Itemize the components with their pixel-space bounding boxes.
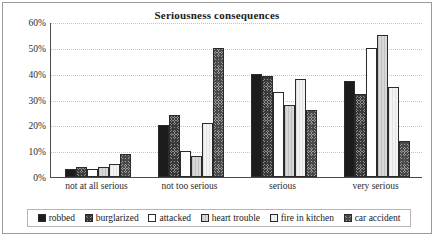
bar bbox=[262, 76, 273, 177]
bar bbox=[180, 151, 191, 177]
legend-item[interactable]: burglarized bbox=[85, 213, 139, 223]
bar bbox=[355, 94, 366, 177]
bar bbox=[191, 156, 202, 177]
y-axis-tick-label: 50% bbox=[29, 44, 46, 54]
bar-group bbox=[237, 23, 330, 177]
legend-swatch-icon bbox=[148, 214, 156, 222]
bar bbox=[98, 167, 109, 177]
bar-group bbox=[330, 23, 423, 177]
y-axis-tick-label: 0% bbox=[33, 173, 46, 183]
bar bbox=[273, 92, 284, 177]
legend-label: burglarized bbox=[96, 213, 139, 223]
legend-label: heart trouble bbox=[212, 213, 260, 223]
legend-label: robbed bbox=[49, 213, 75, 223]
bar bbox=[377, 35, 388, 177]
y-axis-tick-label: 30% bbox=[29, 96, 46, 106]
plot-area: 0%10%20%30%40%50%60% bbox=[50, 23, 422, 178]
bar bbox=[213, 48, 224, 177]
legend-item[interactable]: fire in kitchen bbox=[270, 213, 334, 223]
legend-item[interactable]: heart trouble bbox=[201, 213, 260, 223]
x-axis-tick-label: serious bbox=[269, 181, 296, 191]
legend-item[interactable]: robbed bbox=[38, 213, 75, 223]
y-axis-tick-label: 20% bbox=[29, 121, 46, 131]
legend-swatch-icon bbox=[38, 214, 46, 222]
chart-legend: robbedburglarizedattackedheart troublefi… bbox=[27, 209, 411, 227]
bar bbox=[399, 141, 410, 177]
bar-group bbox=[144, 23, 237, 177]
bar bbox=[295, 79, 306, 177]
bar bbox=[158, 125, 169, 177]
bar bbox=[169, 115, 180, 177]
x-axis-tick-label: not too serious bbox=[162, 181, 218, 191]
bar bbox=[65, 169, 76, 177]
legend-item[interactable]: attacked bbox=[148, 213, 191, 223]
bar bbox=[109, 164, 120, 177]
x-axis-tick-label: very serious bbox=[352, 181, 398, 191]
legend-item[interactable]: car accident bbox=[344, 213, 401, 223]
bar bbox=[306, 110, 317, 177]
legend-swatch-icon bbox=[85, 214, 93, 222]
bar bbox=[76, 167, 87, 177]
legend-label: car accident bbox=[355, 213, 401, 223]
bar bbox=[344, 81, 355, 177]
legend-swatch-icon bbox=[270, 214, 278, 222]
x-axis-tick-label: not at all serious bbox=[65, 181, 128, 191]
bar bbox=[284, 105, 295, 177]
bar bbox=[120, 154, 131, 177]
legend-label: fire in kitchen bbox=[281, 213, 334, 223]
bar-group bbox=[51, 23, 144, 177]
bar bbox=[202, 123, 213, 177]
y-axis-tick-label: 60% bbox=[29, 18, 46, 28]
legend-label: attacked bbox=[159, 213, 191, 223]
legend-swatch-icon bbox=[344, 214, 352, 222]
chart-title: Seriousness consequences bbox=[3, 9, 431, 21]
bar bbox=[251, 74, 262, 177]
bar bbox=[87, 169, 98, 177]
y-axis-tick-label: 10% bbox=[29, 147, 46, 157]
legend-swatch-icon bbox=[201, 214, 209, 222]
bar bbox=[388, 87, 399, 177]
bar bbox=[366, 48, 377, 177]
chart-container: Seriousness consequences 0%10%20%30%40%5… bbox=[2, 2, 432, 234]
y-axis-tick-label: 40% bbox=[29, 70, 46, 80]
